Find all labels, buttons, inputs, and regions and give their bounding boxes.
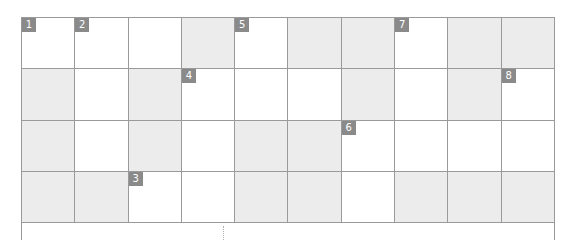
crossword-cell[interactable]	[75, 69, 127, 119]
crossword-cell[interactable]	[288, 69, 340, 119]
cell-letter	[182, 121, 234, 171]
blocked-cell	[235, 172, 287, 222]
crossword-cell[interactable]: 2	[75, 18, 127, 68]
cell-letter	[342, 121, 394, 171]
crossword-cell[interactable]: 3	[129, 172, 181, 222]
crossword-cell[interactable]	[182, 121, 234, 171]
crossword-cell[interactable]	[395, 69, 447, 119]
blocked-cell	[129, 121, 181, 171]
panel-divider	[223, 226, 224, 240]
cell-letter	[502, 69, 554, 119]
cell-letter	[502, 121, 554, 171]
clue-panel	[21, 223, 555, 240]
cell-letter	[395, 18, 447, 68]
blocked-cell	[22, 69, 74, 119]
cell-letter	[288, 69, 340, 119]
crossword-cell[interactable]	[395, 121, 447, 171]
blocked-cell	[448, 69, 500, 119]
blocked-cell	[129, 69, 181, 119]
cell-letter	[75, 69, 127, 119]
crossword-cell[interactable]: 4	[182, 69, 234, 119]
blocked-cell	[342, 69, 394, 119]
blocked-cell	[235, 121, 287, 171]
crossword-cell[interactable]	[75, 121, 127, 171]
crossword-cell[interactable]	[448, 121, 500, 171]
blocked-cell	[448, 18, 500, 68]
crossword-cell[interactable]: 7	[395, 18, 447, 68]
crossword-stage: 12574863	[0, 0, 572, 240]
cell-letter	[395, 69, 447, 119]
blocked-cell	[288, 172, 340, 222]
crossword-cell[interactable]	[129, 18, 181, 68]
cell-letter	[395, 121, 447, 171]
crossword-grid: 12574863	[21, 17, 555, 223]
cell-letter	[342, 172, 394, 222]
cell-letter	[22, 18, 74, 68]
cell-letter	[235, 18, 287, 68]
cell-letter	[75, 121, 127, 171]
cell-letter	[129, 18, 181, 68]
crossword-cell[interactable]: 6	[342, 121, 394, 171]
crossword-cell[interactable]	[502, 121, 554, 171]
blocked-cell	[182, 18, 234, 68]
cell-letter	[129, 172, 181, 222]
cell-letter	[182, 69, 234, 119]
blocked-cell	[448, 172, 500, 222]
blocked-cell	[502, 18, 554, 68]
blocked-cell	[395, 172, 447, 222]
crossword-cell[interactable]	[235, 69, 287, 119]
blocked-cell	[22, 121, 74, 171]
crossword-cell[interactable]: 1	[22, 18, 74, 68]
cell-letter	[182, 172, 234, 222]
crossword-cell[interactable]	[342, 172, 394, 222]
cell-letter	[448, 121, 500, 171]
blocked-cell	[288, 121, 340, 171]
blocked-cell	[502, 172, 554, 222]
blocked-cell	[22, 172, 74, 222]
blocked-cell	[288, 18, 340, 68]
crossword-cell[interactable]: 5	[235, 18, 287, 68]
cell-letter	[75, 18, 127, 68]
crossword-cell[interactable]: 8	[502, 69, 554, 119]
blocked-cell	[75, 172, 127, 222]
cell-letter	[235, 69, 287, 119]
blocked-cell	[342, 18, 394, 68]
crossword-cell[interactable]	[182, 172, 234, 222]
